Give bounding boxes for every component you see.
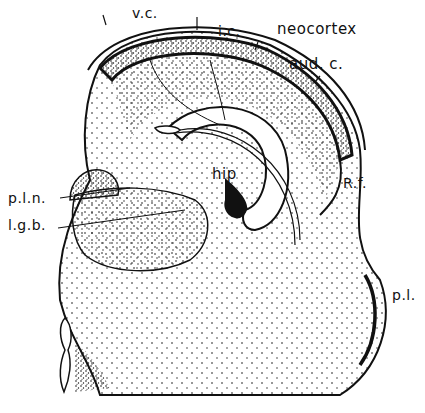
third-ventricle: [60, 318, 71, 392]
brain-section-diagram: v.c. i.c. neocortex aud. c. hip R.f. p.l…: [0, 0, 425, 413]
label-piriform-lobe: p.l.: [392, 288, 416, 302]
label-neocortex: neocortex: [277, 22, 357, 37]
label-hippocampus: hip: [212, 167, 237, 182]
label-visual-cortex: v.c.: [132, 6, 158, 20]
label-intermediate-cortex: i.c.: [218, 24, 241, 38]
tick: [103, 15, 106, 25]
label-lateral-geniculate-body: l.g.b.: [8, 218, 46, 232]
label-pulvinar-lateral-nucleus: p.l.n.: [8, 191, 46, 205]
diagram-drawing: [0, 0, 425, 413]
lateral-geniculate-body: [72, 188, 207, 271]
label-auditory-cortex: aud. c.: [289, 57, 343, 72]
label-rhinal-fissure: R.f.: [343, 176, 367, 190]
